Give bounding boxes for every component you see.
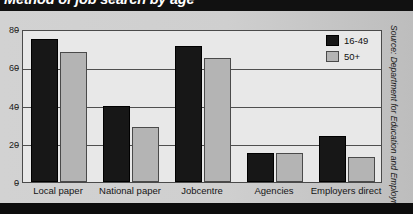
legend-item: 50+: [326, 49, 382, 63]
legend-swatch-icon: [326, 51, 339, 62]
legend-swatch-icon: [326, 35, 339, 46]
y-axis-tick: [15, 30, 19, 31]
bar-national-paper-16-49: [103, 106, 130, 183]
legend-label: 16-49: [344, 35, 368, 46]
chart-panel: 020406080 Local paperNational paperJobce…: [0, 11, 413, 203]
bar-agencies-16-49: [247, 153, 274, 182]
y-axis-tick: [15, 183, 19, 184]
source-text: Source: Department for Education and Emp…: [389, 25, 399, 214]
bar-employers-direct-16-49: [319, 136, 346, 182]
x-axis-label: Jobcentre: [181, 185, 223, 196]
y-axis: 020406080: [2, 30, 19, 183]
title-bar: Method of job search by age: [0, 0, 413, 11]
legend-label: 50+: [344, 51, 360, 62]
x-axis-labels: Local paperNational paperJobcentreAgenci…: [22, 185, 382, 199]
legend-item: 16-49: [326, 33, 382, 47]
bar-jobcentre-16-49: [175, 46, 202, 182]
bottom-band: [0, 203, 413, 214]
x-axis-label: Employers direct: [311, 185, 382, 196]
y-axis-tick: [15, 145, 19, 146]
x-axis-label: National paper: [99, 185, 161, 196]
chart-legend: 16-4950+: [326, 33, 382, 65]
x-axis-label: Local paper: [33, 185, 83, 196]
bar-local-paper-50+: [60, 52, 87, 182]
page-title: Method of job search by age: [4, 0, 194, 7]
y-axis-tick: [15, 68, 19, 69]
bar-national-paper-50+: [132, 127, 159, 182]
source-note: Source: Department for Education and Emp…: [388, 25, 402, 211]
x-axis-label: Agencies: [254, 185, 293, 196]
bar-jobcentre-50+: [204, 58, 231, 182]
y-axis-tick: [15, 107, 19, 108]
bar-employers-direct-50+: [348, 157, 375, 182]
bar-local-paper-16-49: [31, 39, 58, 182]
bar-agencies-50+: [276, 153, 303, 182]
chart-screenshot: Method of job search by age 020406080 Lo…: [0, 0, 413, 214]
